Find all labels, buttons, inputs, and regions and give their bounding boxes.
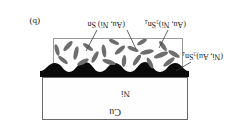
panel-tag: (b) — [30, 17, 41, 27]
annotation-particle-needle: (Au, Ni)₃Sn₄ — [145, 20, 186, 28]
annotation-imc-scallop: (Ni, Au)₃Sn₄ — [182, 52, 223, 60]
figure-panel-b: Cu Ni — [0, 0, 231, 131]
annotation-particle-round: (Au, Ni) Sn — [87, 20, 125, 28]
